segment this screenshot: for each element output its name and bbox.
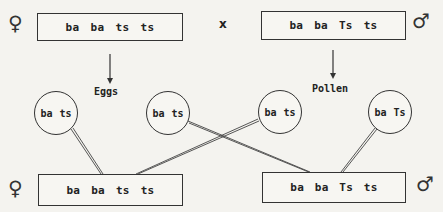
gamete-pollen-2: ba Ts — [368, 90, 412, 134]
gamete-pollen-1: ba ts — [258, 90, 302, 134]
allele: ba — [290, 181, 304, 194]
allele: Ts — [339, 19, 353, 32]
gamete-egg-2: ba ts — [146, 91, 190, 135]
eggs-label: Eggs — [94, 86, 118, 97]
female-symbol-icon: ♀ — [8, 178, 23, 198]
male-parent-genotype: ba ba Ts ts — [261, 11, 406, 40]
male-offspring-genotype: ba ba Ts ts — [262, 172, 406, 203]
allele: ts — [364, 19, 378, 32]
allele: ba — [152, 108, 164, 119]
allele: ba — [315, 181, 329, 194]
male-symbol-icon: ♂ — [412, 11, 430, 31]
allele: ba — [314, 19, 328, 32]
allele: Ts — [339, 181, 353, 194]
allele: ba — [66, 184, 80, 197]
allele: ba — [40, 108, 52, 119]
allele: ba — [91, 184, 105, 197]
female-offspring-genotype: ba ba ts ts — [38, 174, 183, 206]
allele: ts — [141, 184, 155, 197]
allele: ts — [116, 184, 130, 197]
allele: ba — [66, 21, 80, 34]
male-symbol-icon: ♂ — [416, 174, 434, 194]
allele: ba — [374, 107, 386, 118]
allele: ts — [172, 108, 184, 119]
allele: ts — [284, 107, 296, 118]
female-parent-genotype: ba ba ts ts — [37, 13, 183, 41]
pollen-label: Pollen — [312, 83, 348, 94]
allele: Ts — [394, 107, 406, 118]
allele: ba — [264, 107, 276, 118]
allele: ts — [364, 181, 378, 194]
gamete-egg-1: ba ts — [34, 91, 78, 135]
allele: ts — [60, 108, 72, 119]
cross-symbol: x — [219, 17, 227, 31]
allele: ba — [289, 19, 303, 32]
allele: ba — [91, 21, 105, 34]
allele: ts — [141, 21, 155, 34]
allele: ts — [116, 21, 130, 34]
female-symbol-icon: ♀ — [8, 13, 23, 33]
